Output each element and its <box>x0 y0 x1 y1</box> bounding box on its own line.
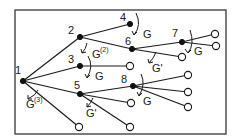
node-label-7: 7 <box>172 27 178 39</box>
arrow-g2-icon <box>82 43 87 53</box>
edge-5-8 <box>80 86 133 94</box>
arrow-g-7-icon <box>188 30 192 53</box>
terminal-node-t10 <box>75 123 82 130</box>
edge-6-t3 <box>132 49 182 57</box>
operator-label-gp-6: G' <box>152 62 163 74</box>
terminal-node-t1 <box>211 30 218 37</box>
nodes-group: 12345678 <box>15 11 220 131</box>
node-3 <box>77 63 82 68</box>
arrow-g-4-icon <box>134 13 139 35</box>
terminal-node-t9 <box>126 123 133 130</box>
operator-arrows <box>28 13 192 107</box>
edge-7-t1 <box>182 34 215 42</box>
terminal-node-t3 <box>178 53 185 60</box>
operator-superscript-g2: (2) <box>100 46 109 54</box>
node-7 <box>179 39 184 44</box>
terminal-node-t7 <box>184 103 191 110</box>
diagram-frame <box>15 10 226 134</box>
terminal-node-t8 <box>127 99 134 106</box>
operator-label-g-7: G <box>194 45 203 57</box>
node-8 <box>130 83 135 88</box>
node-label-2: 2 <box>68 24 74 36</box>
node-label-4: 4 <box>120 11 126 23</box>
operator-superscript-g3: (3) <box>34 96 43 104</box>
edge-6-7 <box>132 42 182 49</box>
node-label-5: 5 <box>74 79 80 91</box>
node-6 <box>129 46 134 51</box>
arrow-g-3-icon <box>87 56 91 78</box>
node-4 <box>127 21 132 26</box>
terminal-node-t4 <box>126 62 133 69</box>
edge-1-3 <box>23 66 80 81</box>
node-label-3: 3 <box>68 53 74 65</box>
terminal-node-t2 <box>212 42 219 49</box>
terminal-node-t6 <box>184 88 191 95</box>
node-5 <box>77 91 82 96</box>
edge-8-t5 <box>133 75 188 86</box>
node-label-6: 6 <box>125 35 131 47</box>
tree-diagram: 12345678 G(3)G(2)GGG'GG'G <box>0 0 234 140</box>
operator-label-g-8: G <box>143 95 152 107</box>
edge-2-4 <box>80 24 130 37</box>
node-label-1: 1 <box>15 64 21 76</box>
operator-label-g-3: G <box>95 70 104 82</box>
node-2 <box>77 34 82 39</box>
operator-label-gp-5: G' <box>86 107 97 119</box>
node-1 <box>20 78 25 83</box>
node-label-8: 8 <box>121 73 127 85</box>
terminal-node-t5 <box>184 71 191 78</box>
operator-label-g-4: G <box>143 28 152 40</box>
